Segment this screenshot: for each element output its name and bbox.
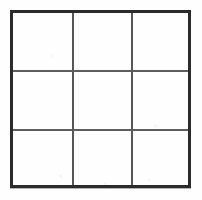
grid-cell-r3c3[interactable] bbox=[133, 131, 188, 185]
grid-horizontal-divider-2 bbox=[12, 129, 189, 131]
grid-cell-r2c3[interactable] bbox=[133, 72, 188, 129]
grid-cell-r2c2[interactable] bbox=[74, 72, 131, 129]
grid-vertical-divider-2 bbox=[131, 12, 133, 187]
grid-border-left bbox=[10, 10, 13, 188]
figure-canvas bbox=[0, 0, 202, 200]
grid-vertical-divider-1 bbox=[72, 12, 74, 187]
grid-cell-r3c1[interactable] bbox=[13, 131, 72, 185]
figure-caption bbox=[10, 190, 191, 198]
grid-cell-r2c1[interactable] bbox=[13, 72, 72, 129]
grid-border-bottom-scan-echo bbox=[10, 188, 191, 189]
grid-cell-r1c2[interactable] bbox=[74, 13, 131, 70]
grid-cell-r1c3[interactable] bbox=[133, 13, 188, 70]
three-by-three-grid[interactable] bbox=[10, 10, 191, 188]
grid-horizontal-divider-1 bbox=[12, 70, 189, 72]
grid-cell-r3c2[interactable] bbox=[74, 131, 131, 185]
grid-border-right bbox=[188, 10, 191, 188]
grid-cell-r1c1[interactable] bbox=[13, 13, 72, 70]
grid-border-top bbox=[10, 10, 191, 13]
